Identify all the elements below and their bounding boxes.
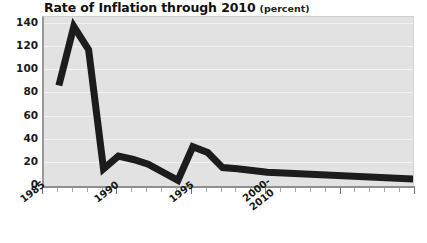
x-tick-minor (384, 188, 385, 192)
y-tick-label: 40 (23, 132, 38, 144)
chart-title-main: Rate of Inflation through 2010 (44, 0, 256, 15)
chart-title-unit: (percent) (260, 3, 310, 14)
x-tick-minor (87, 188, 88, 192)
x-tick-minor (399, 188, 400, 192)
x-tick-minor (325, 188, 326, 192)
x-tick-minor (235, 188, 236, 192)
y-tick-label: 80 (23, 85, 38, 97)
x-tick-major (340, 188, 341, 194)
y-tick-label: 100 (16, 62, 38, 74)
x-tick-minor (72, 188, 73, 192)
x-tick-minor (354, 188, 355, 192)
x-tick-minor (280, 188, 281, 192)
y-tick-label: 120 (16, 39, 38, 51)
x-tick-minor (146, 188, 147, 192)
y-tick-label: 140 (16, 16, 38, 28)
x-tick-minor (295, 188, 296, 192)
x-tick-minor (369, 188, 370, 192)
x-tick-minor (221, 188, 222, 192)
y-axis: 020406080100120140 (0, 0, 38, 200)
x-tick-minor (310, 188, 311, 192)
x-tick-minor (161, 188, 162, 192)
inflation-line-chart: Rate of Inflation through 2010 (percent)… (0, 0, 427, 243)
x-tick-minor (206, 188, 207, 192)
x-tick-minor (57, 188, 58, 192)
plot-area (42, 16, 414, 186)
x-tick-minor (131, 188, 132, 192)
y-tick-label: 20 (23, 155, 38, 167)
y-tick-label: 60 (23, 109, 38, 121)
x-tick-major (414, 188, 415, 194)
inflation-series (44, 17, 414, 186)
